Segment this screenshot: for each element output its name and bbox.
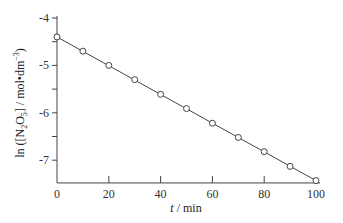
x-tick-label: 100 xyxy=(307,187,325,201)
data-point xyxy=(235,134,241,140)
data-point xyxy=(132,77,138,83)
data-point xyxy=(313,178,319,184)
ticks xyxy=(52,18,264,183)
x-tick-label: 60 xyxy=(206,187,218,201)
y-tick-label: -6 xyxy=(39,106,49,120)
chart: 020406080100-4-5-6-7 t / min ln ([N2O5] … xyxy=(0,0,343,223)
data-point xyxy=(184,106,190,112)
x-axis-title: t / min xyxy=(170,201,201,215)
axes xyxy=(57,16,320,183)
x-tick-label: 40 xyxy=(155,187,167,201)
x-tick-label: 20 xyxy=(103,187,115,201)
data-point xyxy=(106,62,112,68)
data-point xyxy=(287,163,293,169)
data-point xyxy=(54,34,60,40)
y-tick-label: -7 xyxy=(39,153,49,167)
x-tick-label: 80 xyxy=(258,187,270,201)
y-tick-label: -5 xyxy=(39,58,49,72)
data-point xyxy=(80,48,86,54)
data-points xyxy=(54,34,319,184)
data-point xyxy=(209,120,215,126)
data-point xyxy=(261,149,267,155)
x-tick-label: 0 xyxy=(54,187,60,201)
y-axis-title: ln ([N2O5] / mol•dm−3) xyxy=(12,48,29,158)
y-tick-label: -4 xyxy=(39,11,49,25)
data-point xyxy=(158,91,164,97)
